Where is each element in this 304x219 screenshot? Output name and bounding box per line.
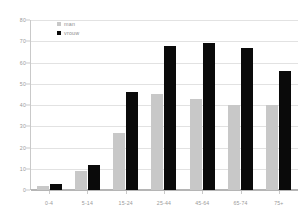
bar-man-45-64[interactable] bbox=[190, 99, 202, 190]
x-tick-5-14: 5-14 bbox=[68, 191, 106, 206]
bar-vrouw-15-24[interactable] bbox=[126, 92, 138, 190]
bar-vrouw-5-14[interactable] bbox=[88, 165, 100, 191]
y-tick-label-50: 50 bbox=[4, 81, 26, 87]
bar-group-25-44 bbox=[145, 20, 183, 190]
bar-vrouw-45-64[interactable] bbox=[203, 43, 215, 190]
y-tick-label-10: 10 bbox=[4, 166, 26, 172]
legend-label-man: man bbox=[64, 21, 75, 27]
bar-man-65-74[interactable] bbox=[228, 105, 240, 190]
x-tick-label-5-14: 5-14 bbox=[68, 200, 106, 206]
legend-item-vrouw[interactable]: vrouw bbox=[57, 30, 79, 36]
bar-man-25-44[interactable] bbox=[151, 94, 163, 190]
x-tick-label-15-24: 15-24 bbox=[107, 200, 145, 206]
bar-man-15-24[interactable] bbox=[113, 133, 125, 190]
y-tick-label-80: 80 bbox=[4, 17, 26, 23]
x-axis: 0-45-1415-2425-4445-6465-7475+ bbox=[30, 191, 298, 206]
x-tick-mark-25-44 bbox=[164, 191, 165, 194]
x-tick-25-44: 25-44 bbox=[145, 191, 183, 206]
bar-group-0-4 bbox=[30, 20, 68, 190]
y-tick-label-60: 60 bbox=[4, 60, 26, 66]
legend-label-vrouw: vrouw bbox=[64, 30, 79, 36]
legend-swatch-vrouw-icon bbox=[57, 31, 61, 35]
bar-vrouw-25-44[interactable] bbox=[164, 46, 176, 191]
bar-group-75+ bbox=[260, 20, 298, 190]
bar-man-0-4[interactable] bbox=[37, 186, 49, 190]
y-tick-label-0: 0 bbox=[4, 187, 26, 193]
x-tick-label-65-74: 65-74 bbox=[221, 200, 259, 206]
x-tick-15-24: 15-24 bbox=[107, 191, 145, 206]
y-tick-label-40: 40 bbox=[4, 102, 26, 108]
x-tick-mark-5-14 bbox=[87, 191, 88, 194]
y-tick-label-30: 30 bbox=[4, 123, 26, 129]
x-tick-mark-15-24 bbox=[126, 191, 127, 194]
bars-layer bbox=[30, 20, 298, 190]
y-tick-label-70: 70 bbox=[4, 38, 26, 44]
bar-group-5-14 bbox=[68, 20, 106, 190]
bar-man-5-14[interactable] bbox=[75, 171, 87, 190]
x-tick-label-25-44: 25-44 bbox=[145, 200, 183, 206]
bar-group-45-64 bbox=[183, 20, 221, 190]
x-tick-mark-65-74 bbox=[241, 191, 242, 194]
x-tick-label-0-4: 0-4 bbox=[30, 200, 68, 206]
bar-man-75+[interactable] bbox=[266, 105, 278, 190]
bar-group-15-24 bbox=[107, 20, 145, 190]
x-tick-0-4: 0-4 bbox=[30, 191, 68, 206]
legend-swatch-man-icon bbox=[57, 22, 61, 26]
bar-vrouw-65-74[interactable] bbox=[241, 48, 253, 190]
legend-item-man[interactable]: man bbox=[57, 21, 79, 27]
bar-chart: 80706050403020100 0-45-1415-2425-4445-64… bbox=[0, 0, 304, 219]
bar-vrouw-75+[interactable] bbox=[279, 71, 291, 190]
x-tick-mark-0-4 bbox=[49, 191, 50, 194]
x-tick-label-45-64: 45-64 bbox=[183, 200, 221, 206]
bar-group-65-74 bbox=[221, 20, 259, 190]
y-tick-label-20: 20 bbox=[4, 145, 26, 151]
x-tick-mark-45-64 bbox=[202, 191, 203, 194]
bar-vrouw-0-4[interactable] bbox=[50, 184, 62, 190]
x-tick-mark-75+ bbox=[279, 191, 280, 194]
x-tick-45-64: 45-64 bbox=[183, 191, 221, 206]
x-tick-label-75+: 75+ bbox=[260, 200, 298, 206]
chart-legend: man vrouw bbox=[57, 21, 79, 36]
x-tick-75+: 75+ bbox=[260, 191, 298, 206]
x-tick-65-74: 65-74 bbox=[221, 191, 259, 206]
